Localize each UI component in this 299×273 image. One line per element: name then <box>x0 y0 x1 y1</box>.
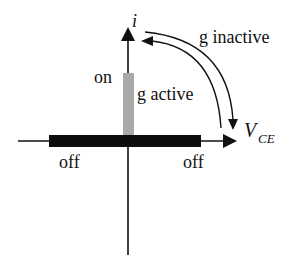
off-left-label: off <box>59 152 80 172</box>
horizontal-axis-label-subscript: CE <box>258 131 275 146</box>
g-active-label: g active <box>137 84 193 104</box>
on-state-bar <box>123 73 134 136</box>
g-inactive-arrowhead-icon <box>228 119 238 130</box>
g-active-arrowhead-icon <box>141 36 153 46</box>
horizontal-axis-label-main: V <box>244 119 259 141</box>
off-right-label: off <box>183 152 204 172</box>
on-label: on <box>94 67 112 87</box>
g-inactive-label: g inactive <box>199 27 269 47</box>
horizontal-axis-arrowhead-icon <box>223 134 237 148</box>
vertical-axis-label: i <box>132 11 137 31</box>
iv-characteristic-diagram: i on g active g inactive off off V CE <box>0 0 299 273</box>
off-state-bar <box>49 135 201 147</box>
